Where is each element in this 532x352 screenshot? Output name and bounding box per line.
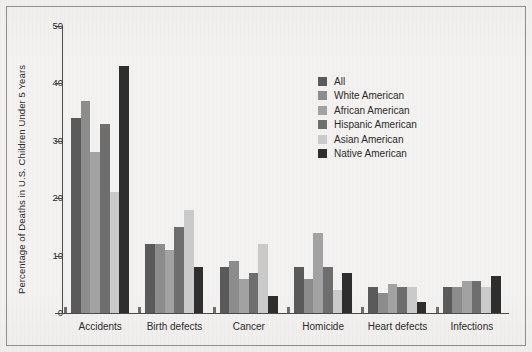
bar[interactable] — [407, 287, 417, 313]
bar-group-bars — [220, 26, 278, 313]
bar[interactable] — [481, 287, 491, 313]
bar[interactable] — [491, 276, 501, 313]
bar[interactable] — [342, 273, 352, 313]
bar-group — [368, 26, 426, 313]
bar-group — [443, 26, 501, 313]
bar-group-bars — [145, 26, 203, 313]
legend-swatch-icon — [318, 77, 327, 86]
bar[interactable] — [194, 267, 204, 313]
legend-item-label: Native American — [334, 148, 407, 159]
bar[interactable] — [472, 281, 482, 313]
bar[interactable] — [229, 261, 239, 313]
bar[interactable] — [378, 293, 388, 313]
bar[interactable] — [323, 267, 333, 313]
bar[interactable] — [81, 101, 91, 313]
bar[interactable] — [268, 296, 278, 313]
legend-swatch-icon — [318, 120, 327, 129]
legend-item-label: All — [334, 76, 345, 87]
legend-item-label: Hispanic American — [334, 119, 417, 130]
legend-item[interactable]: African American — [318, 103, 417, 118]
chart-figure: Percentage of Deaths in U.S. Children Un… — [0, 0, 532, 352]
x-axis-tick-label: Heart defects — [360, 321, 434, 332]
legend-item[interactable]: Asian American — [318, 132, 417, 147]
bar[interactable] — [155, 244, 165, 313]
bar-group-bars — [71, 26, 129, 313]
bar[interactable] — [100, 124, 110, 313]
bar[interactable] — [184, 210, 194, 313]
bar[interactable] — [333, 290, 343, 313]
legend-swatch-icon — [318, 135, 327, 144]
bar-group — [294, 26, 352, 313]
legend-item-label: African American — [334, 105, 410, 116]
y-axis-tick-mark — [55, 198, 63, 199]
legend-item[interactable]: Hispanic American — [318, 118, 417, 133]
bar[interactable] — [417, 302, 427, 313]
legend-swatch-icon — [318, 149, 327, 158]
legend-item[interactable]: Native American — [318, 147, 417, 162]
y-axis-tick-mark — [55, 313, 63, 314]
legend-item[interactable]: All — [318, 74, 417, 89]
bar-group-bars — [294, 26, 352, 313]
y-axis-title-text: Percentage of Deaths in U.S. Children Un… — [16, 64, 27, 293]
group-separator-stub — [436, 307, 439, 313]
y-axis-tick-mark — [55, 83, 63, 84]
bar[interactable] — [174, 227, 184, 313]
bar[interactable] — [388, 284, 398, 313]
bar[interactable] — [397, 287, 407, 313]
legend-swatch-icon — [318, 91, 327, 100]
x-axis-tick-label: Accidents — [63, 321, 137, 332]
legend-item-label: Asian American — [334, 134, 403, 145]
bar[interactable] — [313, 233, 323, 313]
plot-area — [63, 26, 509, 313]
x-axis-tick-label: Infections — [435, 321, 509, 332]
legend-item-label: White American — [334, 90, 404, 101]
legend: AllWhite AmericanAfrican AmericanHispani… — [318, 74, 417, 161]
x-axis-tick-label: Cancer — [212, 321, 286, 332]
group-separator-stub — [361, 307, 364, 313]
bar-group — [145, 26, 203, 313]
legend-item[interactable]: White American — [318, 89, 417, 104]
bar[interactable] — [294, 267, 304, 313]
bar-group-bars — [368, 26, 426, 313]
x-axis-tick-label: Birth defects — [137, 321, 211, 332]
group-separator-stub — [64, 307, 67, 313]
bar[interactable] — [304, 279, 314, 313]
y-axis-tick-mark — [55, 141, 63, 142]
bar[interactable] — [110, 192, 120, 313]
bar-group — [71, 26, 129, 313]
bar[interactable] — [145, 244, 155, 313]
bar[interactable] — [71, 118, 81, 313]
y-axis-tick-mark — [55, 26, 63, 27]
bar-group — [220, 26, 278, 313]
x-axis-tick-label: Homicide — [286, 321, 360, 332]
bar[interactable] — [220, 267, 230, 313]
bar[interactable] — [90, 152, 100, 313]
group-separator-stub — [213, 307, 216, 313]
y-axis-title: Percentage of Deaths in U.S. Children Un… — [10, 48, 32, 310]
bar-group-bars — [443, 26, 501, 313]
bar[interactable] — [368, 287, 378, 313]
y-axis-tick-mark — [55, 256, 63, 257]
group-separator-stub — [138, 307, 141, 313]
bar[interactable] — [443, 287, 453, 313]
group-separator-stub — [287, 307, 290, 313]
bar[interactable] — [165, 250, 175, 313]
bar[interactable] — [452, 287, 462, 313]
bar[interactable] — [462, 281, 472, 313]
bar[interactable] — [249, 273, 259, 313]
legend-swatch-icon — [318, 106, 327, 115]
bar[interactable] — [119, 66, 129, 313]
x-axis-line — [62, 313, 509, 314]
bar[interactable] — [258, 244, 268, 313]
bar[interactable] — [239, 279, 249, 313]
